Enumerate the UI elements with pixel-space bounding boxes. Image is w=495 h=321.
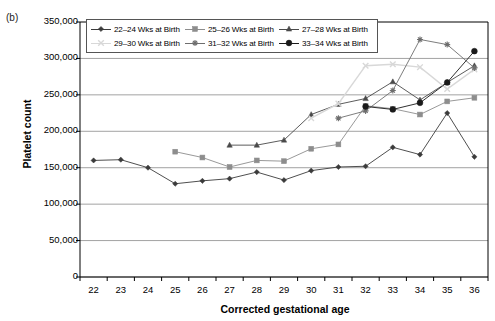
data-point-square bbox=[309, 146, 314, 151]
legend-item[interactable]: 22–24 Wks at Birth bbox=[91, 22, 180, 36]
legend-item[interactable]: 33–34 Wks at Birth bbox=[279, 36, 368, 50]
data-point-star bbox=[417, 36, 423, 42]
data-point-cross bbox=[98, 40, 104, 46]
data-point-triangle bbox=[286, 26, 291, 31]
x-tick-label: 36 bbox=[463, 284, 485, 295]
data-point-diamond bbox=[417, 152, 422, 157]
y-tick-label: 300,000 bbox=[30, 52, 78, 62]
legend-label: 33–34 Wks at Birth bbox=[302, 39, 368, 48]
series-1 bbox=[91, 110, 477, 186]
y-tick-label: 50,000 bbox=[30, 235, 78, 245]
data-point-triangle bbox=[390, 79, 395, 84]
data-point-diamond bbox=[98, 26, 103, 31]
data-point-circle bbox=[417, 100, 423, 106]
series-2 bbox=[173, 95, 477, 169]
x-tick-label: 30 bbox=[300, 284, 322, 295]
x-axis-title: Corrected gestational age bbox=[80, 303, 490, 315]
x-tick-label: 24 bbox=[137, 284, 159, 295]
data-point-diamond bbox=[145, 165, 150, 170]
legend-label: 29–30 Wks at Birth bbox=[114, 39, 180, 48]
x-tick-label: 32 bbox=[355, 284, 377, 295]
series-line bbox=[94, 113, 475, 184]
y-tick-label: 350,000 bbox=[30, 16, 78, 26]
x-tick-label: 31 bbox=[327, 284, 349, 295]
x-tick-label: 27 bbox=[219, 284, 241, 295]
chart-legend: 22–24 Wks at Birth25–26 Wks at Birth27–2… bbox=[86, 19, 378, 53]
legend-marker-triangle-icon bbox=[279, 24, 299, 34]
x-tick-label: 25 bbox=[164, 284, 186, 295]
data-point-cross bbox=[444, 86, 450, 92]
legend-marker-star-icon bbox=[185, 38, 205, 48]
legend-label: 22–24 Wks at Birth bbox=[114, 25, 180, 34]
y-axis-tick-labels: 050,000100,000150,000200,000250,000300,0… bbox=[20, 0, 78, 321]
x-tick-label: 33 bbox=[382, 284, 404, 295]
legend-label: 27–28 Wks at Birth bbox=[302, 25, 368, 34]
data-point-square bbox=[254, 158, 259, 163]
data-point-square bbox=[472, 95, 477, 100]
data-point-circle bbox=[363, 104, 369, 110]
x-tick-label: 34 bbox=[409, 284, 431, 295]
x-tick-label: 35 bbox=[436, 284, 458, 295]
data-point-square bbox=[173, 149, 178, 154]
data-point-square bbox=[418, 112, 423, 117]
data-point-square bbox=[282, 159, 287, 164]
x-tick-label: 23 bbox=[110, 284, 132, 295]
panel-label: (b) bbox=[6, 12, 18, 23]
data-point-circle bbox=[390, 107, 396, 113]
data-point-circle bbox=[286, 40, 292, 46]
legend-row-2: 29–30 Wks at Birth31–32 Wks at Birth33–3… bbox=[87, 36, 377, 50]
series-line bbox=[175, 98, 474, 167]
legend-item[interactable]: 25–26 Wks at Birth bbox=[185, 22, 274, 36]
legend-item[interactable]: 29–30 Wks at Birth bbox=[91, 36, 180, 50]
data-point-star bbox=[335, 115, 341, 121]
data-point-diamond bbox=[91, 158, 96, 163]
data-point-diamond bbox=[281, 178, 286, 183]
y-tick-label: 250,000 bbox=[30, 89, 78, 99]
x-axis-tick-labels: 222324252627282930313233343536 bbox=[80, 282, 490, 298]
data-point-diamond bbox=[118, 157, 123, 162]
legend-marker-circle-icon bbox=[279, 38, 299, 48]
data-point-star bbox=[471, 65, 477, 71]
legend-label: 31–32 Wks at Birth bbox=[208, 39, 274, 48]
legend-row-1: 22–24 Wks at Birth25–26 Wks at Birth27–2… bbox=[87, 22, 377, 36]
legend-label: 25–26 Wks at Birth bbox=[208, 25, 274, 34]
data-point-diamond bbox=[173, 181, 178, 186]
data-point-diamond bbox=[309, 168, 314, 173]
data-point-diamond bbox=[445, 110, 450, 115]
data-point-circle bbox=[444, 80, 450, 86]
data-point-square bbox=[193, 27, 198, 32]
x-tick-label: 29 bbox=[273, 284, 295, 295]
data-point-diamond bbox=[472, 154, 477, 159]
data-point-square bbox=[336, 142, 341, 147]
data-point-triangle bbox=[363, 96, 368, 101]
legend-marker-cross-icon bbox=[91, 38, 111, 48]
figure-panel: (b) Platelet count Corrected gestational… bbox=[0, 0, 495, 321]
data-point-square bbox=[200, 155, 205, 160]
data-point-square bbox=[445, 99, 450, 104]
legend-item[interactable]: 31–32 Wks at Birth bbox=[185, 36, 274, 50]
data-point-square bbox=[227, 165, 232, 170]
y-tick-label: 0 bbox=[30, 271, 78, 281]
legend-marker-square-icon bbox=[185, 24, 205, 34]
data-point-diamond bbox=[390, 145, 395, 150]
data-point-star bbox=[192, 40, 198, 46]
data-point-diamond bbox=[254, 169, 259, 174]
y-tick-label: 150,000 bbox=[30, 162, 78, 172]
series-line bbox=[230, 66, 475, 145]
y-tick-label: 100,000 bbox=[30, 198, 78, 208]
legend-marker-diamond-icon bbox=[91, 24, 111, 34]
legend-item[interactable]: 27–28 Wks at Birth bbox=[279, 22, 368, 36]
data-point-diamond bbox=[336, 164, 341, 169]
x-tick-label: 22 bbox=[83, 284, 105, 295]
data-point-diamond bbox=[227, 176, 232, 181]
y-tick-label: 200,000 bbox=[30, 125, 78, 135]
x-tick-label: 28 bbox=[246, 284, 268, 295]
data-point-diamond bbox=[200, 178, 205, 183]
data-point-circle bbox=[472, 48, 478, 54]
x-tick-label: 26 bbox=[191, 284, 213, 295]
